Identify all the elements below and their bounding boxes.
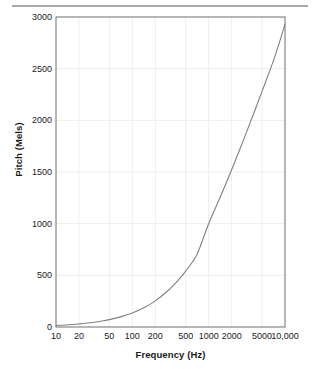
x-tick-label: 100 <box>125 331 140 341</box>
x-tick-label: 10 <box>51 331 61 341</box>
mel-curve <box>56 24 285 325</box>
mel-scale-chart: 050010001500200025003000 102050100200500… <box>0 0 320 369</box>
x-tick-label: 5000 <box>252 331 272 341</box>
x-tick-label: 50 <box>104 331 114 341</box>
x-tick-label: 10,000 <box>271 331 299 341</box>
y-tick-label: 1000 <box>10 219 52 229</box>
chart-plot-area <box>0 0 320 369</box>
y-tick-label: 3000 <box>10 12 52 22</box>
x-tick-label: 20 <box>74 331 84 341</box>
y-axis-title: Pitch (Mels) <box>13 105 24 195</box>
x-axis-title: Frequency (Hz) <box>56 349 285 360</box>
x-tick-label: 500 <box>178 331 193 341</box>
gridlines <box>56 17 285 327</box>
y-tick-label: 500 <box>10 270 52 280</box>
x-tick-label: 2000 <box>222 331 242 341</box>
y-tick-label: 2500 <box>10 64 52 74</box>
x-tick-label: 1000 <box>199 331 219 341</box>
x-tick-label: 200 <box>148 331 163 341</box>
y-tick-label: 0 <box>10 322 52 332</box>
